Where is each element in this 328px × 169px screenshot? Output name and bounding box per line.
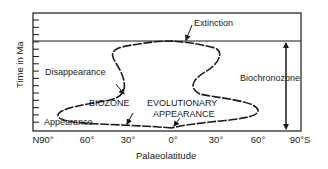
evolutionary-label-line1: EVOLUTIONARY	[147, 98, 217, 108]
extinction-label: Extinction	[194, 18, 233, 28]
disappearance-label: Disappearance	[45, 67, 106, 77]
appearance-arrow	[127, 113, 133, 124]
x-axis-title: Palaeolatitude	[136, 150, 196, 161]
x-axis-tick-labels: N90°60°30°0°30°60°90°S	[32, 134, 310, 145]
evolutionary-appearance-arrow	[174, 118, 180, 126]
x-tick-label: 30°	[121, 134, 136, 145]
y-axis-ticks	[33, 20, 39, 122]
disappearance-arrow	[116, 84, 124, 94]
y-axis-title: Time in Ma	[14, 41, 25, 88]
x-tick-label: 0°	[168, 134, 177, 145]
biochronozone-label: Biochronozone	[240, 73, 300, 83]
x-tick-label: 60°	[251, 134, 266, 145]
x-tick-label: N90°	[32, 134, 53, 145]
extinction-arrow	[186, 25, 192, 40]
biozone-label: BIOZONE	[89, 98, 130, 108]
evolutionary-label-line2: APPEARANCE	[153, 109, 215, 119]
x-tick-label: 90°S	[290, 134, 311, 145]
appearance-label: Appearance	[44, 117, 93, 127]
x-tick-label: 30°	[209, 134, 224, 145]
x-tick-label: 60°	[80, 134, 95, 145]
biozone-diagram: Extinction Disappearance Appearance BIOZ…	[0, 0, 328, 169]
